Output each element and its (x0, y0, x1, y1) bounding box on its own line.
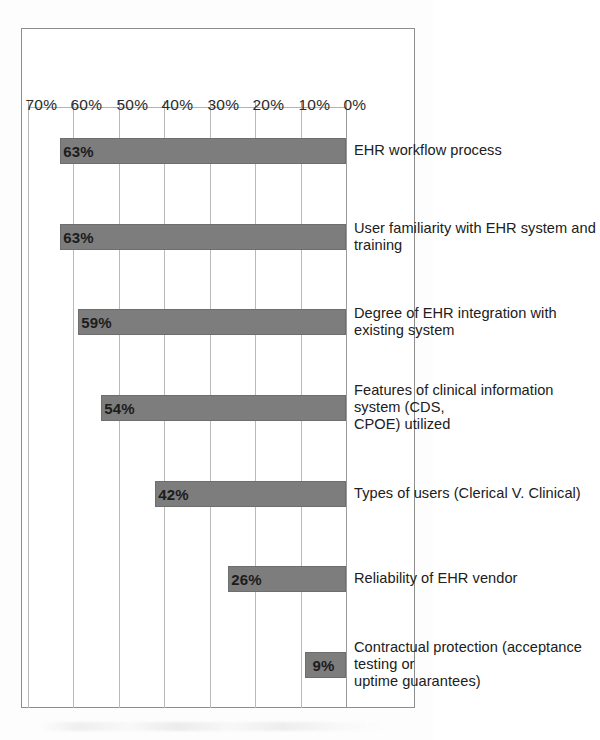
bar-value-label: 9% (304, 658, 344, 673)
category-axis-label: EHR workflow process (354, 142, 600, 159)
category-axis-label: Degree of EHR integration with existing … (354, 305, 600, 339)
value-axis-tick-label: 70% (26, 97, 72, 113)
value-axis-tick-label: 40% (162, 97, 208, 113)
bar-value-label: 63% (58, 229, 98, 244)
value-axis-tick-label: 50% (116, 97, 162, 113)
category-axis-label: Contractual protection (acceptance testi… (354, 639, 600, 691)
bar-value-label: 26% (226, 572, 266, 587)
value-axis-tick-label: 20% (253, 97, 299, 113)
value-axis-tick-label: 30% (207, 97, 253, 113)
chart-frame: 9%26%42%54%59%63%63% 0%10%20%30%40%50%60… (21, 28, 415, 708)
bar-value-label: 42% (154, 486, 194, 501)
gridline (73, 108, 74, 708)
value-axis-tick-label: 0% (344, 97, 390, 113)
rotated-chart-stage: 9%26%42%54%59%63%63% 0%10%20%30%40%50%60… (22, 28, 414, 708)
bar-value-label: 54% (99, 401, 139, 416)
plot-area: 9%26%42%54%59%63%63% (28, 108, 346, 708)
bar-value-label: 63% (58, 143, 98, 158)
category-axis-label: User familiarity with EHR system and tra… (354, 219, 600, 253)
bar (60, 224, 346, 250)
value-axis-tick-label: 10% (298, 97, 344, 113)
category-axis-label: Types of users (Clerical V. Clinical) (354, 485, 600, 502)
axis-baseline (346, 108, 347, 708)
scan-artifact (38, 722, 388, 731)
category-axis-label: Reliability of EHR vendor (354, 571, 600, 588)
bar (78, 309, 346, 335)
value-axis-tick-label: 60% (71, 97, 117, 113)
gridline (28, 108, 29, 708)
category-axis-label: Features of clinical information system … (354, 382, 600, 434)
bar (60, 138, 346, 164)
bar-value-label: 59% (76, 315, 116, 330)
